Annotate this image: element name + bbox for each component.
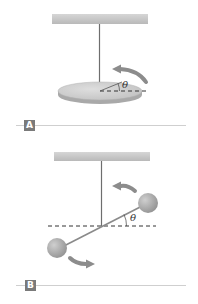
panel-b-divider [16, 285, 186, 286]
panel-a-label: A [24, 120, 35, 131]
rotation-arrowhead-icon [112, 65, 121, 74]
panel-a: θ A [0, 0, 198, 140]
panel-a-divider [16, 125, 186, 126]
angle-theta-label: θ [122, 80, 128, 90]
disk-torsion-pendulum-diagram [0, 0, 198, 140]
sphere-lower [47, 238, 67, 258]
ceiling-support [52, 14, 148, 24]
angle-arc [124, 215, 127, 227]
rotation-arrowhead-lower-icon [86, 260, 95, 269]
rotation-arrowhead-upper-icon [112, 182, 121, 191]
panel-b: θ B [0, 140, 198, 304]
rotation-arrow-lower-icon [70, 258, 86, 264]
sphere-upper [138, 193, 158, 213]
ceiling-support [54, 152, 150, 161]
rotation-arrow-upper-icon [121, 186, 135, 191]
angle-theta-label: θ [130, 213, 136, 223]
panel-b-label: B [25, 280, 36, 291]
